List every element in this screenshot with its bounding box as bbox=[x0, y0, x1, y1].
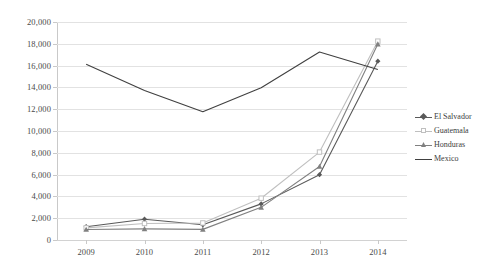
data-series-layer bbox=[57, 22, 407, 240]
legend-label: Mexico bbox=[434, 154, 458, 164]
series-line-mexico bbox=[86, 52, 378, 112]
chart-legend: El SalvadorGuatemalaHondurasMexico bbox=[415, 110, 493, 166]
legend-item-el-salvador[interactable]: El Salvador bbox=[415, 110, 493, 124]
x-axis-label: 2013 bbox=[311, 247, 328, 257]
x-axis-tick bbox=[320, 240, 321, 244]
legend-item-honduras[interactable]: Honduras bbox=[415, 138, 493, 152]
x-axis-label: 2012 bbox=[252, 247, 269, 257]
legend-label: Honduras bbox=[434, 140, 465, 150]
y-axis-label: 0 bbox=[47, 235, 51, 245]
x-axis-tick bbox=[86, 240, 87, 244]
series-line-guatemala bbox=[86, 41, 378, 228]
legend-swatch-icon bbox=[415, 140, 432, 150]
legend-swatch-icon bbox=[415, 126, 432, 136]
y-axis-label: 4,000 bbox=[31, 191, 51, 201]
plot-area: 02,0004,0006,0008,00010,00012,00014,0001… bbox=[57, 22, 407, 240]
x-axis-label: 2009 bbox=[77, 247, 94, 257]
x-axis-label: 2011 bbox=[194, 247, 211, 257]
series-line-el-salvador bbox=[86, 61, 378, 226]
legend-item-mexico[interactable]: Mexico bbox=[415, 152, 493, 166]
x-axis-tick bbox=[145, 240, 146, 244]
data-point-marker bbox=[317, 172, 322, 177]
legend-item-guatemala[interactable]: Guatemala bbox=[415, 124, 493, 138]
line-chart: 02,0004,0006,0008,00010,00012,00014,0001… bbox=[0, 0, 495, 275]
data-point-marker bbox=[375, 59, 380, 64]
x-axis-tick bbox=[261, 240, 262, 244]
x-axis-tick bbox=[203, 240, 204, 244]
data-point-marker bbox=[317, 164, 323, 169]
legend-swatch-icon bbox=[415, 154, 432, 164]
y-axis-label: 14,000 bbox=[27, 82, 51, 92]
y-axis-label: 18,000 bbox=[27, 39, 51, 49]
data-point-marker bbox=[142, 221, 146, 225]
y-axis-label: 20,000 bbox=[27, 17, 51, 27]
y-axis-label: 16,000 bbox=[27, 61, 51, 71]
gridline bbox=[57, 240, 407, 241]
data-point-marker bbox=[317, 150, 321, 154]
x-axis-tick bbox=[378, 240, 379, 244]
x-axis-label: 2014 bbox=[369, 247, 386, 257]
data-point-marker bbox=[201, 221, 205, 225]
y-axis-label: 12,000 bbox=[27, 104, 51, 114]
series-line-honduras bbox=[86, 44, 378, 229]
legend-swatch-icon bbox=[415, 112, 432, 122]
x-axis-label: 2010 bbox=[136, 247, 153, 257]
legend-label: Guatemala bbox=[434, 126, 469, 136]
data-point-marker bbox=[259, 196, 263, 200]
y-axis-label: 10,000 bbox=[27, 126, 51, 136]
y-axis-label: 2,000 bbox=[31, 213, 51, 223]
y-axis-tick bbox=[53, 240, 57, 241]
y-axis-label: 6,000 bbox=[31, 170, 51, 180]
legend-label: El Salvador bbox=[434, 112, 472, 122]
y-axis-label: 8,000 bbox=[31, 148, 51, 158]
